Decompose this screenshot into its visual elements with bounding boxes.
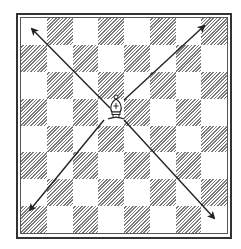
- board-square: [21, 152, 47, 179]
- board-square: [98, 72, 124, 99]
- board-square: [124, 45, 150, 72]
- board-square: [21, 206, 47, 233]
- board-square: [47, 45, 73, 72]
- board-square: [47, 206, 73, 233]
- board-square: [201, 179, 227, 206]
- board-square: [73, 99, 99, 126]
- board-square: [47, 72, 73, 99]
- board-square: [98, 179, 124, 206]
- board-square: [98, 45, 124, 72]
- board-square: [124, 179, 150, 206]
- board-square: [21, 72, 47, 99]
- board-square: [73, 18, 99, 45]
- board-square: [150, 18, 176, 45]
- board-square: [47, 179, 73, 206]
- board-square: [98, 206, 124, 233]
- board-square: [21, 45, 47, 72]
- board-square: [201, 206, 227, 233]
- board-square: [124, 206, 150, 233]
- board-square: [201, 99, 227, 126]
- board-square: [150, 152, 176, 179]
- board-square: [73, 152, 99, 179]
- board-square: [176, 179, 202, 206]
- board-square: [47, 152, 73, 179]
- board-square: [21, 99, 47, 126]
- board-square: [124, 99, 150, 126]
- board-square: [150, 45, 176, 72]
- board-square: [201, 18, 227, 45]
- board-square: [47, 99, 73, 126]
- board-square: [176, 152, 202, 179]
- board-square: [73, 126, 99, 153]
- board-square: [201, 45, 227, 72]
- board-square: [201, 152, 227, 179]
- board-square: [124, 18, 150, 45]
- board-square: [176, 206, 202, 233]
- board-square: [47, 18, 73, 45]
- board-square: [176, 72, 202, 99]
- board-square: [98, 18, 124, 45]
- board-square: [21, 18, 47, 45]
- board-square: [150, 72, 176, 99]
- board-square: [124, 152, 150, 179]
- board-square: [73, 179, 99, 206]
- board-square: [176, 18, 202, 45]
- board-square: [21, 179, 47, 206]
- board-square: [73, 206, 99, 233]
- board-square: [201, 126, 227, 153]
- board-square: [21, 126, 47, 153]
- board-square: [124, 72, 150, 99]
- board-square: [176, 126, 202, 153]
- board-square: [124, 126, 150, 153]
- board-square: [201, 72, 227, 99]
- board-square: [176, 99, 202, 126]
- board-square: [150, 206, 176, 233]
- board-square: [98, 152, 124, 179]
- board-square: [98, 99, 124, 126]
- chessboard: [20, 17, 228, 234]
- board-square: [150, 179, 176, 206]
- board-square: [150, 126, 176, 153]
- board-square: [150, 99, 176, 126]
- board-square: [47, 126, 73, 153]
- board-square: [176, 45, 202, 72]
- board-square: [98, 126, 124, 153]
- board-square: [73, 72, 99, 99]
- board-square: [73, 45, 99, 72]
